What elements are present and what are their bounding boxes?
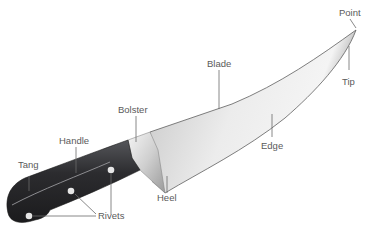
label-rivets: Rivets [98, 211, 124, 221]
rivet-2 [68, 188, 75, 195]
blade-shape [150, 30, 356, 193]
label-point: Point [339, 8, 361, 18]
leader-point [350, 19, 356, 28]
label-handle: Handle [59, 136, 89, 146]
rivet-3 [108, 167, 115, 174]
label-tip: Tip [342, 77, 355, 87]
label-bolster: Bolster [118, 105, 148, 115]
leader-rivet-2 [75, 194, 96, 214]
label-heel: Heel [157, 193, 177, 203]
knife-illustration [0, 0, 379, 241]
label-blade: Blade [207, 59, 231, 69]
rivet-1 [26, 213, 33, 220]
label-edge: Edge [261, 141, 283, 151]
label-tang: Tang [18, 160, 39, 170]
